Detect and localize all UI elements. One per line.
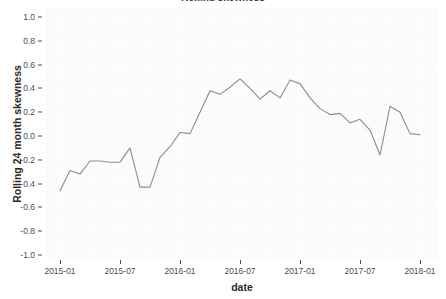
x-tick-label: 2016-01: [164, 266, 195, 276]
x-tick-label: 2015-07: [104, 266, 135, 276]
y-tick-mark: [38, 255, 42, 256]
y-tick-mark: [38, 17, 42, 18]
x-tick-mark: [420, 260, 421, 264]
x-tick-mark: [240, 260, 241, 264]
x-tick-mark: [360, 260, 361, 264]
y-tick-mark: [38, 88, 42, 89]
x-tick-label: 2018-01: [404, 266, 435, 276]
y-tick-label: 0.6: [23, 60, 35, 69]
y-tick-label: 0.2: [23, 108, 35, 117]
x-tick-label: 2015-01: [44, 266, 75, 276]
y-tick-mark: [38, 136, 42, 137]
y-tick-mark: [38, 40, 42, 41]
plot-panel: [46, 8, 438, 260]
x-tick-mark: [180, 260, 181, 264]
x-tick-mark: [120, 260, 121, 264]
x-tick-mark: [300, 260, 301, 264]
y-tick-label: -1.0: [20, 251, 35, 260]
y-axis: Rolling 24 month skewness 1.00.80.60.40.…: [0, 0, 46, 268]
y-tick-mark: [38, 159, 42, 160]
y-tick-label: -0.4: [20, 179, 35, 188]
x-axis-title: date: [46, 281, 438, 293]
x-tick-label: 2017-07: [344, 266, 375, 276]
y-tick-label: -0.8: [20, 227, 35, 236]
chart-title: Rolling skewness: [0, 0, 446, 1]
y-tick-mark: [38, 112, 42, 113]
gridlines: [46, 8, 438, 260]
y-tick-mark: [38, 231, 42, 232]
x-tick-label: 2017-01: [284, 266, 315, 276]
y-tick-mark: [38, 183, 42, 184]
y-tick-label: 0.8: [23, 36, 35, 45]
chart-root: Rolling skewness Rolling 24 month skewne…: [0, 0, 446, 299]
y-tick-mark: [38, 207, 42, 208]
y-tick-label: 1.0: [23, 13, 35, 22]
x-tick-mark: [60, 260, 61, 264]
x-tick-label: 2016-07: [224, 266, 255, 276]
plot-area: [46, 8, 438, 260]
y-tick-label: 0.0: [23, 132, 35, 141]
y-tick-mark: [38, 64, 42, 65]
y-tick-label: -0.6: [20, 203, 35, 212]
y-tick-label: -0.2: [20, 155, 35, 164]
y-tick-label: 0.4: [23, 84, 35, 93]
